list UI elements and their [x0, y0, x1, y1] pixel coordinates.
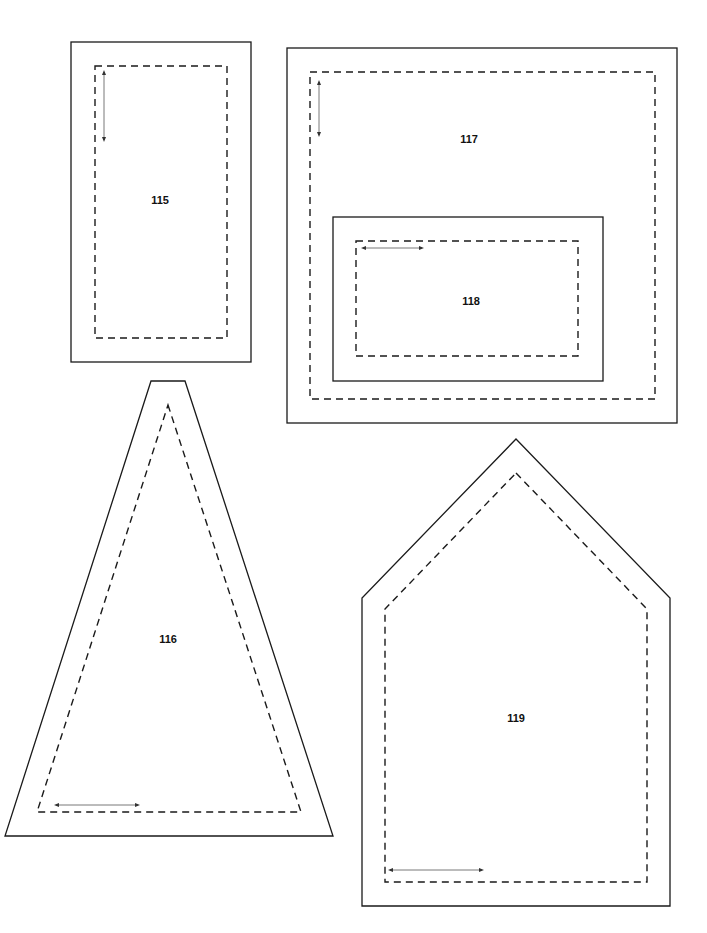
piece-118: 118: [333, 217, 603, 381]
piece-label-115: 115: [151, 194, 169, 206]
cut-line-117: [287, 48, 677, 423]
piece-label-117: 117: [460, 133, 478, 145]
piece-label-119: 119: [507, 712, 525, 724]
seam-line-116: [37, 405, 301, 812]
piece-116: 116: [5, 381, 333, 836]
cut-line-119: [362, 439, 670, 906]
cut-line-116: [5, 381, 333, 836]
piece-label-118: 118: [462, 295, 480, 307]
piece-label-116: 116: [159, 633, 177, 645]
piece-119: 119: [362, 439, 670, 906]
pattern-sheet: 115 117 118 116 119: [0, 0, 707, 933]
piece-115: 115: [71, 42, 251, 362]
piece-117: 117: [287, 48, 677, 423]
